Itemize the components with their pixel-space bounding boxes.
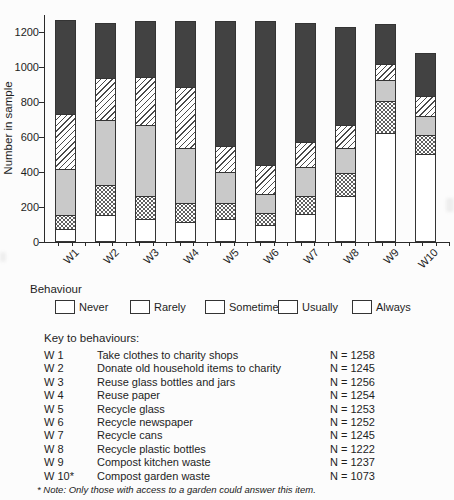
- segment-rarely-W2: [96, 185, 115, 215]
- segment-sometimes-W10: [416, 116, 435, 136]
- x-tick: [220, 242, 221, 246]
- segment-sometimes-W8: [336, 148, 355, 173]
- y-tick: [39, 137, 44, 138]
- segment-sometimes-W3: [136, 125, 155, 196]
- segment-usually-W3: [136, 77, 155, 125]
- key-code: W 1: [44, 349, 97, 362]
- dots-swatch-icon: [130, 300, 150, 314]
- key-sample-size: N = 1253: [330, 403, 434, 416]
- x-label-W2: W2: [100, 246, 120, 266]
- segment-never-W2: [96, 215, 115, 241]
- segment-sometimes-W5: [216, 172, 235, 203]
- x-tick: [422, 242, 423, 246]
- segment-sometimes-W2: [96, 120, 115, 185]
- key-sample-size: N = 1258: [330, 349, 434, 362]
- x-tick: [314, 242, 315, 246]
- y-tick: [39, 207, 44, 208]
- x-tick: [301, 242, 302, 246]
- key-heading: Key to behaviours:: [44, 332, 139, 344]
- x-tick: [247, 242, 248, 246]
- key-behaviour: Recycle cans: [97, 429, 330, 442]
- segment-rarely-W9: [376, 101, 395, 132]
- y-tick-label: 1000: [5, 61, 39, 73]
- solid-dark-swatch-icon: [352, 300, 372, 314]
- segment-never-W4: [176, 222, 195, 241]
- x-tick: [166, 242, 167, 246]
- segment-usually-W2: [96, 78, 115, 120]
- segment-rarely-W3: [136, 196, 155, 220]
- x-tick: [328, 242, 329, 246]
- bar-W7: [295, 23, 316, 242]
- segment-usually-W10: [416, 96, 435, 116]
- legend-label: Never: [79, 301, 108, 313]
- key-behaviour: Donate old household items to charity: [97, 362, 330, 375]
- key-row: W 10*Compost garden wasteN = 1073: [44, 470, 434, 483]
- x-tick: [274, 242, 275, 246]
- key-sample-size: N = 1254: [330, 389, 434, 402]
- segment-rarely-W1: [56, 215, 75, 229]
- segment-rarely-W6: [256, 213, 275, 225]
- bar-W4: [175, 21, 196, 242]
- segment-always-W5: [216, 22, 235, 146]
- segment-sometimes-W1: [56, 169, 75, 215]
- solid-gray-swatch-icon: [205, 300, 225, 314]
- y-tick-label: 200: [5, 201, 39, 213]
- segment-rarely-W10: [416, 135, 435, 153]
- x-tick: [85, 242, 86, 246]
- segment-always-W9: [376, 25, 395, 64]
- x-tick: [139, 242, 140, 246]
- segment-usually-W6: [256, 165, 275, 194]
- key-sample-size: N = 1073: [330, 470, 434, 483]
- segment-rarely-W7: [296, 196, 315, 214]
- key-code: W 3: [44, 376, 97, 389]
- legend-label: Always: [376, 301, 411, 313]
- key-code: W 8: [44, 443, 97, 456]
- segment-rarely-W5: [216, 203, 235, 220]
- y-tick-label: 1200: [5, 26, 39, 38]
- x-tick: [126, 242, 127, 246]
- segment-never-W6: [256, 225, 275, 241]
- x-tick: [99, 242, 100, 246]
- scanned-stacked-bar-figure: Number in sample 020040060080010001200 W…: [0, 0, 454, 500]
- key-behaviour: Compost kitchen waste: [97, 456, 330, 469]
- key-row: W 1Take clothes to charity shopsN = 1258: [44, 349, 434, 362]
- key-row: W 7Recycle cansN = 1245: [44, 429, 434, 442]
- segment-usually-W9: [376, 64, 395, 80]
- y-tick-label: 600: [5, 131, 39, 143]
- x-tick: [260, 242, 261, 246]
- key-footnote: * Note: Only those with access to a gard…: [37, 484, 316, 495]
- x-tick: [409, 242, 410, 246]
- key-sample-size: N = 1256: [330, 376, 434, 389]
- solid-white-swatch-icon: [55, 300, 75, 314]
- x-label-W6: W6: [260, 246, 280, 266]
- segment-always-W10: [416, 54, 435, 96]
- y-tick-label: 0: [5, 236, 39, 248]
- bar-W6: [255, 21, 276, 242]
- key-code: W 10*: [44, 470, 97, 483]
- x-tick: [58, 242, 59, 246]
- key-row: W 4Reuse paperN = 1254: [44, 389, 434, 402]
- x-label-W5: W5: [220, 246, 240, 266]
- plot-area: Number in sample 020040060080010001200 W…: [44, 15, 449, 243]
- segment-usually-W8: [336, 125, 355, 148]
- legend-label: Rarely: [154, 301, 186, 313]
- key-row: W 9Compost kitchen wasteN = 1237: [44, 456, 434, 469]
- bar-W1: [55, 20, 76, 242]
- key-row: W 6Recycle newspaperN = 1252: [44, 416, 434, 429]
- legend-title: Behaviour: [30, 283, 82, 295]
- segment-never-W1: [56, 229, 75, 241]
- key-sample-size: N = 1222: [330, 443, 434, 456]
- x-tick: [355, 242, 356, 246]
- x-tick: [193, 242, 194, 246]
- segment-sometimes-W4: [176, 148, 195, 203]
- y-tick-label: 400: [5, 166, 39, 178]
- x-tick: [287, 242, 288, 246]
- key-table: W 1Take clothes to charity shopsN = 1258…: [44, 349, 434, 483]
- segment-sometimes-W7: [296, 167, 315, 196]
- key-code: W 4: [44, 389, 97, 402]
- diagonal-stripes-swatch-icon: [278, 300, 298, 314]
- key-row: W 5Recycle glassN = 1253: [44, 403, 434, 416]
- scan-artifact: [0, 252, 6, 262]
- x-tick: [395, 242, 396, 246]
- x-tick: [436, 242, 437, 246]
